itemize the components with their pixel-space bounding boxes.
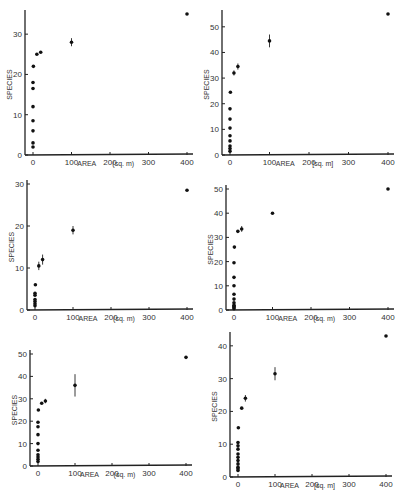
data-point: [236, 462, 240, 466]
panel-2: 010203040500100200300400AREA[sq. m]SPECI…: [200, 6, 406, 181]
data-point: [268, 39, 272, 43]
x-tick-label: 400: [381, 313, 395, 322]
data-point: [37, 408, 41, 412]
y-tick-label: 30: [214, 233, 223, 242]
x-axis-unit: [sq. m]: [314, 482, 335, 490]
x-tick-label: 0: [232, 313, 237, 322]
data-point: [228, 144, 232, 148]
data-point: [39, 50, 43, 54]
data-point: [236, 441, 240, 445]
x-axis: [30, 465, 192, 466]
data-point: [44, 399, 48, 403]
data-point: [236, 447, 240, 451]
x-axis-label: AREA: [80, 471, 99, 478]
data-point: [232, 292, 236, 296]
data-point: [236, 452, 240, 456]
y-axis-label: SPECIES: [207, 234, 214, 265]
y-tick-label: 10: [13, 111, 22, 120]
data-point: [237, 426, 241, 430]
data-point: [36, 421, 40, 425]
data-point: [384, 334, 388, 338]
y-tick-label: 0: [23, 462, 28, 471]
data-point: [36, 433, 40, 437]
data-point: [228, 134, 232, 138]
data-point: [31, 145, 35, 149]
data-point: [386, 12, 390, 16]
y-tick-label: 50: [18, 350, 27, 359]
data-point: [232, 301, 236, 305]
panel-1: 01020300100200300400AREA(sq. m)SPECIES: [3, 6, 205, 181]
data-point: [37, 264, 41, 268]
x-axis-unit: (sq. m): [313, 315, 335, 323]
scatter-plot: 0102030400100200300400AREA[sq. m]SPECIES: [208, 328, 404, 494]
x-tick-label: 0: [236, 480, 241, 489]
data-point: [34, 283, 38, 287]
y-axis-label: SPECIES: [6, 69, 13, 100]
x-tick-label: 300: [142, 158, 156, 167]
y-tick-label: 40: [210, 48, 219, 57]
x-tick-label: 0: [228, 158, 233, 167]
data-point: [73, 384, 77, 388]
data-point: [184, 356, 188, 360]
data-point: [228, 126, 232, 130]
y-tick-label: 0: [215, 151, 220, 160]
x-axis-label: AREA: [78, 315, 97, 322]
x-tick-label: 0: [31, 158, 36, 167]
y-tick-label: 50: [210, 23, 219, 32]
data-point: [232, 284, 236, 288]
data-point: [229, 90, 233, 94]
x-axis: [222, 154, 394, 155]
data-point: [36, 425, 40, 429]
y-tick-label: 40: [218, 342, 227, 351]
x-axis-unit: (sq. m): [114, 471, 136, 479]
y-tick-label: 0: [219, 306, 224, 315]
x-tick-label: 300: [142, 313, 156, 322]
y-tick-label: 40: [18, 372, 27, 381]
data-point: [232, 261, 236, 265]
x-tick-label: 300: [342, 158, 356, 167]
data-point: [41, 258, 45, 262]
x-axis-label: AREA: [280, 482, 299, 489]
y-tick-label: 10: [218, 440, 227, 449]
y-tick-label: 20: [13, 70, 22, 79]
x-axis: [25, 154, 193, 155]
x-tick-label: 100: [263, 158, 277, 167]
y-tick-label: 10: [210, 125, 219, 134]
data-point: [273, 372, 277, 376]
x-axis-unit: [sq. m]: [312, 160, 333, 168]
data-point: [271, 211, 275, 215]
x-tick-label: 0: [36, 469, 41, 478]
x-axis: [230, 476, 392, 477]
data-point: [236, 465, 240, 469]
data-point: [31, 119, 35, 123]
data-point: [236, 456, 240, 460]
x-tick-label: 300: [342, 480, 356, 489]
data-point: [31, 81, 35, 85]
data-point: [31, 129, 35, 133]
data-point: [236, 230, 240, 234]
data-point: [31, 141, 35, 145]
y-axis-label: SPECIES: [211, 391, 218, 422]
y-tick-label: 20: [218, 407, 227, 416]
scatter-plot: 010203040500100200300400AREA(sq. m)SPECI…: [8, 346, 204, 488]
x-tick-label: 300: [142, 469, 156, 478]
data-point: [31, 87, 35, 91]
x-tick-label: 0: [33, 313, 38, 322]
y-tick-label: 20: [214, 258, 223, 267]
data-point: [240, 406, 244, 410]
x-tick-label: 400: [180, 313, 194, 322]
panel-5: 010203040500100200300400AREA(sq. m)SPECI…: [8, 346, 204, 492]
scatter-plot: 01020300100200300400AREA(sq. m)SPECIES: [5, 176, 205, 332]
data-point: [228, 139, 232, 143]
data-point: [232, 297, 236, 301]
x-tick-label: 400: [179, 469, 193, 478]
y-tick-label: 30: [15, 180, 24, 189]
y-tick-label: 20: [15, 222, 24, 231]
data-point: [232, 71, 236, 75]
data-point: [244, 397, 248, 401]
y-tick-label: 30: [18, 395, 27, 404]
y-tick-label: 30: [218, 375, 227, 384]
panel-6: 0102030400100200300400AREA[sq. m]SPECIES: [208, 328, 404, 494]
panel-3: 01020300100200300400AREA(sq. m)SPECIES: [5, 176, 205, 336]
x-axis-label: AREA: [276, 160, 295, 167]
